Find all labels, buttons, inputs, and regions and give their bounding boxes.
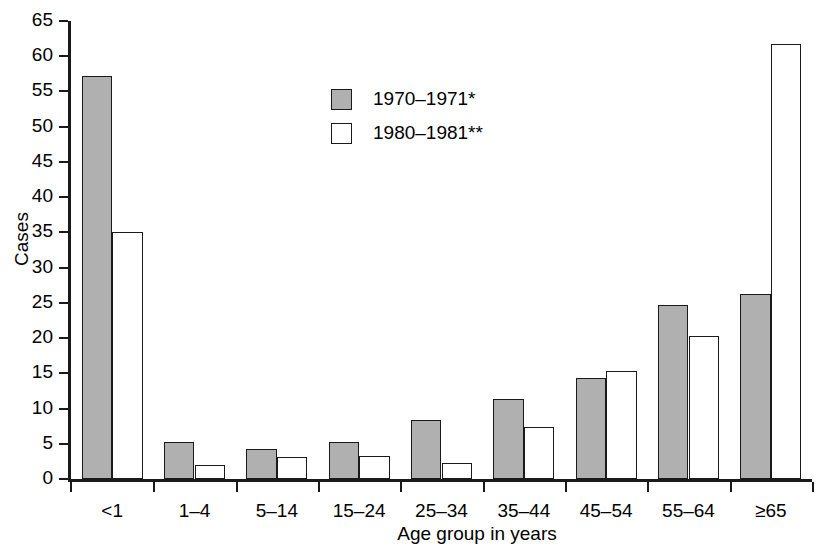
legend-item: 1970–1971* xyxy=(331,82,483,116)
x-axis-tick xyxy=(400,482,402,492)
y-axis-tick: 15 xyxy=(59,372,68,374)
x-axis-tick xyxy=(730,482,732,492)
bar xyxy=(277,457,307,479)
bar xyxy=(740,294,770,479)
y-axis-tick-label: 20 xyxy=(32,326,53,348)
legend-item-label: 1980–1981** xyxy=(373,122,483,144)
bar xyxy=(689,336,719,479)
y-axis-tick-label: 5 xyxy=(42,432,53,454)
bar xyxy=(112,232,142,479)
x-axis-tick-label: 1–4 xyxy=(179,500,211,522)
bar xyxy=(524,427,554,479)
x-axis-line xyxy=(68,479,812,482)
y-axis-tick-label: 10 xyxy=(32,397,53,419)
x-axis-tick xyxy=(236,482,238,492)
y-axis-tick: 20 xyxy=(59,337,68,339)
bar xyxy=(195,465,225,479)
bar xyxy=(658,305,688,479)
y-axis-tick-label: 25 xyxy=(32,291,53,313)
x-axis-tick-label: 45–54 xyxy=(580,500,633,522)
bar xyxy=(606,371,636,480)
bar xyxy=(164,442,194,479)
y-axis-tick-label: 60 xyxy=(32,44,53,66)
y-axis-tick: 40 xyxy=(59,196,68,198)
y-axis-tick-label: 35 xyxy=(32,220,53,242)
x-axis-tick xyxy=(483,482,485,492)
bar xyxy=(493,399,523,479)
y-axis-tick: 60 xyxy=(59,55,68,57)
y-axis-tick: 65 xyxy=(59,20,68,22)
y-axis-tick: 55 xyxy=(59,90,68,92)
x-axis-tick xyxy=(812,482,814,492)
legend: 1970–1971*1980–1981** xyxy=(331,82,483,150)
legend-item-label: 1970–1971* xyxy=(373,88,476,110)
y-axis-tick: 30 xyxy=(59,267,68,269)
y-axis-tick-label: 55 xyxy=(32,79,53,101)
y-axis-tick-label: 40 xyxy=(32,185,53,207)
y-axis-tick-label: 65 xyxy=(32,9,53,31)
bar xyxy=(576,378,606,479)
y-axis-title: Cases xyxy=(11,199,33,279)
y-axis-tick: 25 xyxy=(59,302,68,304)
y-axis-tick: 35 xyxy=(59,231,68,233)
bar xyxy=(329,442,359,479)
x-axis-tick-label: 5–14 xyxy=(256,500,298,522)
y-axis-tick-label: 30 xyxy=(32,256,53,278)
bar xyxy=(246,449,276,479)
bar xyxy=(82,76,112,479)
x-axis-tick-label: <1 xyxy=(101,500,123,522)
bar xyxy=(411,420,441,479)
bar xyxy=(442,463,472,479)
y-axis-tick: 45 xyxy=(59,161,68,163)
y-axis-tick-label: 0 xyxy=(42,467,53,489)
y-axis-tick: 50 xyxy=(59,126,68,128)
y-axis-tick-label: 50 xyxy=(32,115,53,137)
x-axis-tick-label: 25–34 xyxy=(415,500,468,522)
x-axis-tick xyxy=(565,482,567,492)
y-axis-tick-label: 45 xyxy=(32,150,53,172)
y-axis-tick: 5 xyxy=(59,443,68,445)
x-axis-tick-label: ≥65 xyxy=(755,500,787,522)
x-axis-tick-label: 35–44 xyxy=(497,500,550,522)
x-axis-tick xyxy=(318,482,320,492)
x-axis-tick xyxy=(70,482,72,492)
legend-swatch xyxy=(331,89,352,110)
y-axis-tick: 0 xyxy=(59,478,68,480)
x-axis-tick-label: 15–24 xyxy=(333,500,386,522)
x-axis-tick xyxy=(153,482,155,492)
x-axis-tick-label: 55–64 xyxy=(662,500,715,522)
y-axis-tick-label: 15 xyxy=(32,361,53,383)
bar xyxy=(771,44,801,479)
bar xyxy=(359,456,389,479)
x-axis-tick xyxy=(647,482,649,492)
legend-swatch xyxy=(331,123,352,144)
legend-item: 1980–1981** xyxy=(331,116,483,150)
y-axis-tick: 10 xyxy=(59,408,68,410)
bar-chart-figure: Cases 05101520253035404550556065 <11–45–… xyxy=(0,0,824,548)
x-axis-title: Age group in years xyxy=(0,523,824,545)
